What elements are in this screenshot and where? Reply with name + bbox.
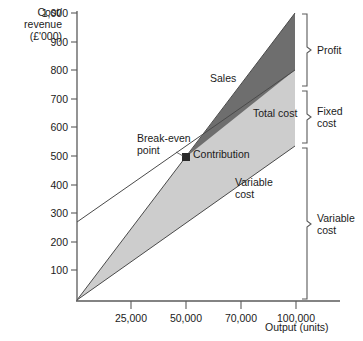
y-tick-label: 800: [34, 64, 68, 76]
variable-cost-bracket: [302, 148, 311, 299]
x-tick-label: 50,000: [158, 312, 214, 324]
x-tick-label: 25,000: [103, 312, 159, 324]
x-tick-label: 70,000: [213, 312, 269, 324]
x-tick-label: 100,000: [268, 312, 324, 324]
profit-bracket: [302, 14, 311, 86]
y-tick-label: 500: [34, 150, 68, 162]
y-tick-label: 700: [34, 93, 68, 105]
total-cost-label: Total cost: [253, 107, 297, 119]
y-tick-label: 300: [34, 207, 68, 219]
x-axis-ticks: [131, 301, 296, 309]
contribution-label: Contribution: [193, 148, 250, 160]
y-tick-label: 400: [34, 179, 68, 191]
fixed-cost-bracket-label: Fixed cost: [317, 105, 343, 130]
y-tick-label: 900: [34, 36, 68, 48]
break-even-point-label: Break-even point: [137, 132, 191, 157]
y-tick-label: 600: [34, 121, 68, 133]
sales-label: Sales: [210, 72, 236, 84]
variable-cost-bracket-label: Variable cost: [317, 212, 355, 237]
fixed-cost-bracket: [302, 91, 311, 143]
break-even-chart-page: Cost/ revenue (£'000) Output (units) 1,0…: [0, 0, 363, 341]
y-axis-ticks: [71, 13, 77, 270]
y-tick-label: 200: [34, 236, 68, 248]
y-tick-label: 1,000: [34, 7, 68, 19]
break-even-chart-svg: [0, 0, 363, 341]
variable-cost-inner-label: Variable cost: [235, 176, 273, 201]
y-tick-label: 100: [34, 264, 68, 276]
profit-bracket-label: Profit: [317, 44, 342, 56]
